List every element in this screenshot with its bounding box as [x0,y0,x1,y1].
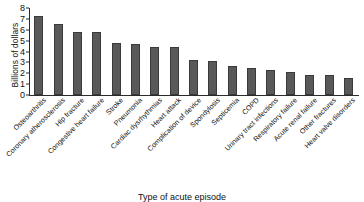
bar [208,61,217,95]
x-axis-title: Type of acute episode [0,192,364,202]
bar-slot [145,8,164,95]
bar-slot [281,8,300,95]
x-axis-line [29,95,359,96]
bar-series [29,8,358,95]
bar [228,66,237,95]
bar [92,32,101,95]
y-axis-title: Billions of dollars [10,7,20,103]
bar [73,32,82,95]
plot-area: 012345678 [29,8,358,95]
bar-slot [300,8,319,95]
bar [266,70,275,95]
bar [131,44,140,95]
bar-slot [68,8,87,95]
bar-slot [87,8,106,95]
bar [54,24,63,95]
bar [247,68,256,95]
bar-slot [29,8,48,95]
bar-slot [184,8,203,95]
bar-slot [165,8,184,95]
bar-slot [48,8,67,95]
bar [305,75,314,95]
bar [189,60,198,95]
bar [344,78,353,95]
bar [325,75,334,95]
bar-slot [106,8,125,95]
bar-slot [203,8,222,95]
bar-slot [339,8,358,95]
bar-slot [261,8,280,95]
bar-slot [319,8,338,95]
bar-chart: Billions of dollars 012345678 Osteoarthr… [0,0,364,202]
bar [112,43,121,95]
bar-slot [126,8,145,95]
bar-slot [223,8,242,95]
bar [34,16,43,95]
bar-slot [242,8,261,95]
bar [286,72,295,95]
bar [150,47,159,95]
bar [170,47,179,95]
